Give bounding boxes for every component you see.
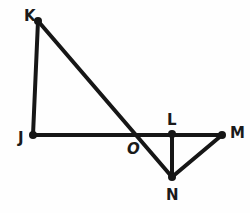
vertex-label-k: K	[24, 9, 36, 24]
segment-JK	[33, 21, 38, 135]
vertex-dot-j	[29, 131, 37, 139]
geometry-figure	[0, 0, 250, 213]
vertex-label-l: L	[167, 113, 177, 128]
vertex-label-n: N	[166, 188, 179, 203]
vertex-dot-l	[168, 130, 176, 138]
segment-KN	[38, 21, 172, 177]
vertex-label-j: J	[18, 131, 24, 146]
vertex-dot-m	[218, 131, 226, 139]
vertex-dot-n	[168, 173, 176, 181]
vertex-label-m: M	[230, 126, 245, 141]
segment-NM	[172, 135, 222, 177]
vertex-label-o: O	[127, 142, 140, 157]
diagram-canvas: KJOLMN	[0, 0, 250, 213]
